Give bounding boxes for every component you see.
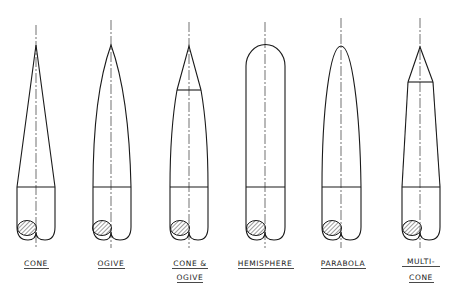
section-hatch xyxy=(403,221,422,236)
section-hatch xyxy=(247,221,266,236)
shape-multi-cone xyxy=(402,18,440,248)
nose-outline xyxy=(322,46,361,187)
ogive-right xyxy=(201,90,208,187)
label-cone-ogive-line2: OGIVE xyxy=(177,273,204,282)
shape-hemisphere xyxy=(246,22,285,248)
section-hatch xyxy=(323,221,342,236)
ogive-left xyxy=(170,90,177,187)
nose-outline xyxy=(246,44,285,187)
label-ogive: OGIVE xyxy=(98,259,125,268)
label-cone-ogive-line1: CONE & xyxy=(173,259,206,268)
labels: CONE OGIVE CONE & OGIVE HEMISPHERE PARAB… xyxy=(24,257,440,283)
shape-cone xyxy=(17,25,55,248)
shape-parabola xyxy=(322,18,361,248)
shape-ogive xyxy=(93,20,132,248)
second-cone-left xyxy=(402,82,408,187)
label-multi-cone-line1: MULTI- xyxy=(407,257,435,266)
tip-cone-outline xyxy=(408,47,433,82)
shape-cone-ogive xyxy=(170,22,208,248)
nose-shapes-diagram: CONE OGIVE CONE & OGIVE HEMISPHERE PARAB… xyxy=(0,0,452,290)
label-multi-cone-line2: CONE xyxy=(409,273,433,282)
label-parabola: PARABOLA xyxy=(321,259,366,268)
section-hatch xyxy=(18,221,37,236)
second-cone-right xyxy=(433,82,440,187)
section-hatch xyxy=(93,221,112,236)
label-hemisphere: HEMISPHERE xyxy=(238,259,293,268)
section-hatch xyxy=(171,221,190,236)
label-cone: CONE xyxy=(24,259,48,268)
nose-outline xyxy=(93,45,131,187)
